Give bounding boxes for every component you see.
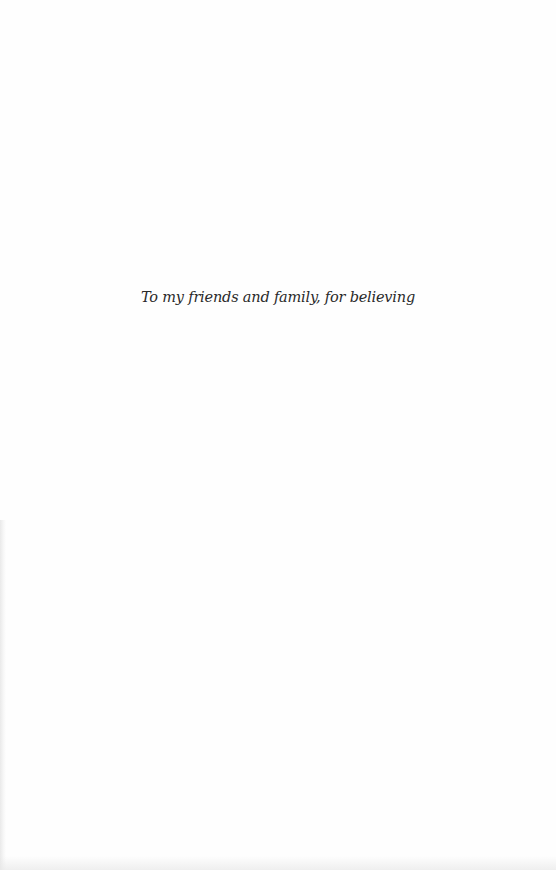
book-page: To my friends and family, for believing — [0, 0, 556, 870]
scan-edge-shadow-left — [0, 520, 6, 870]
dedication-text: To my friends and family, for believing — [0, 289, 556, 305]
scan-edge-shadow-bottom — [0, 856, 556, 870]
